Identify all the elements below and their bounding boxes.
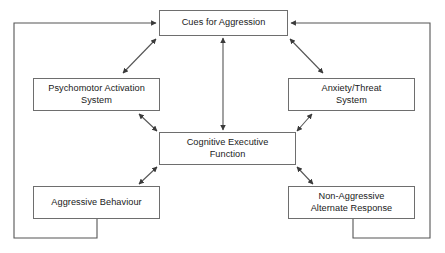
node-anxiety-threat-system-label: Anxiety/Threat System xyxy=(319,83,385,106)
node-aggressive-behaviour: Aggressive Behaviour xyxy=(33,186,160,219)
node-cognitive-executive-function: Cognitive Executive Function xyxy=(159,132,296,165)
node-aggressive-behaviour-label: Aggressive Behaviour xyxy=(48,197,144,209)
node-cues-for-aggression: Cues for Aggression xyxy=(159,10,288,36)
connector-cognitive-nonaggressive xyxy=(297,167,313,184)
connector-psychomotor-cognitive xyxy=(139,114,157,131)
connector-cognitive-aggressive xyxy=(139,167,157,184)
node-anxiety-threat-system: Anxiety/Threat System xyxy=(288,78,415,111)
node-non-aggressive-alternate-response: Non-Aggressive Alternate Response xyxy=(288,186,415,219)
connector-cues-anxiety xyxy=(290,39,323,73)
connector-cues-psychomotor xyxy=(123,39,156,73)
node-psychomotor-activation-system-label: Psychomotor Activation System xyxy=(45,83,148,106)
node-non-aggressive-alternate-response-label: Non-Aggressive Alternate Response xyxy=(308,191,396,214)
node-psychomotor-activation-system: Psychomotor Activation System xyxy=(33,78,160,111)
diagram-canvas: Cues for Aggression Psychomotor Activati… xyxy=(0,0,445,253)
node-cues-for-aggression-label: Cues for Aggression xyxy=(179,17,269,29)
connector-anxiety-cognitive xyxy=(297,114,312,131)
node-cognitive-executive-function-label: Cognitive Executive Function xyxy=(184,137,272,160)
